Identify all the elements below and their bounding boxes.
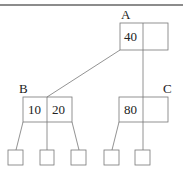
edge-a-b [47, 50, 120, 97]
node-a-label: A [121, 7, 131, 22]
leaf-node [104, 150, 119, 165]
node-c-label: C [163, 81, 172, 96]
node-b-key-2: 20 [52, 102, 65, 117]
edge-c-leaf-1 [112, 122, 119, 150]
b-tree-diagram: A 40 B 10 20 C 80 [0, 0, 183, 180]
leaf-node [135, 150, 150, 165]
node-b: B 10 20 [19, 81, 72, 122]
node-a: A 40 [120, 7, 168, 50]
node-b-key-1: 10 [28, 102, 41, 117]
leaf-node [8, 150, 23, 165]
node-a-key-1: 40 [124, 29, 137, 44]
node-b-label: B [19, 81, 28, 96]
node-c-key-1: 80 [124, 102, 137, 117]
node-c: C 80 [119, 81, 172, 122]
leaf-node [71, 150, 86, 165]
edge-b-leaf-1 [16, 122, 23, 150]
leaf-node [40, 150, 54, 165]
edge-b-leaf-3 [72, 122, 79, 150]
